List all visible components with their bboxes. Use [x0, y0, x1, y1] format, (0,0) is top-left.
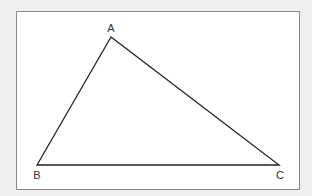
vertex-label-a: A — [107, 23, 114, 34]
triangle-abc — [37, 37, 279, 165]
triangle-diagram — [0, 0, 312, 196]
vertex-label-c: C — [276, 170, 284, 181]
vertex-label-b: B — [33, 170, 40, 181]
